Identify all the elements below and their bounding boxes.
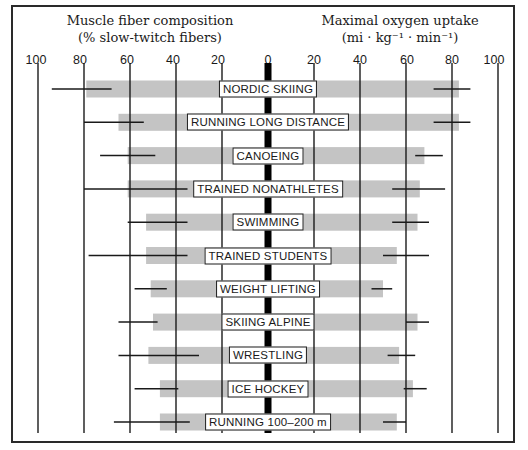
category-label: CANOEING — [233, 147, 304, 164]
category-label: WRESTLING — [229, 347, 307, 364]
category-label: RUNNING 100–200 m — [205, 414, 331, 431]
category-label: NORDIC SKIING — [219, 81, 317, 98]
category-label: TRAINED STUDENTS — [205, 247, 332, 264]
category-label: SKIING ALPINE — [221, 314, 314, 331]
category-label: RUNNING LONG DISTANCE — [187, 114, 349, 131]
category-label: SWIMMING — [233, 214, 304, 231]
category-label: WEIGHT LIFTING — [216, 280, 320, 297]
category-label: TRAINED NONATHLETES — [193, 180, 343, 197]
category-label: ICE HOCKEY — [228, 380, 309, 397]
